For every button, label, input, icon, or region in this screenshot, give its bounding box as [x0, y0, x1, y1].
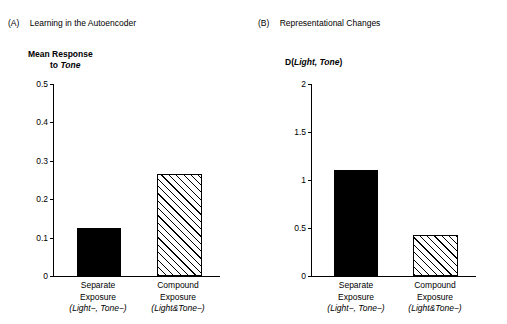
panel-b-y-axis-title-suffix: ) — [339, 57, 342, 67]
panel-b-ytick-4 — [308, 84, 312, 85]
panel-a-yticklabel-0: 0 — [43, 271, 48, 281]
panel-a-title: Learning in the Autoencoder — [30, 18, 136, 28]
panel-a-xlabel-compound-line1: Compound — [132, 280, 224, 292]
panel-a-bar-compound[interactable] — [157, 174, 202, 276]
panel-a-y-axis-title: Mean Response to Tone — [28, 49, 93, 71]
panel-a-letter: (A) — [8, 18, 19, 28]
panel-a-xlabel-separate-line3: (Light−, Tone−) — [53, 303, 143, 315]
panel-a-ytick-5 — [50, 84, 54, 85]
panel-b-xlabel-compound: Compound Exposure (Light&Tone−) — [389, 280, 481, 315]
panel-b-xlabel-separate-line3: (Light−, Tone−) — [311, 303, 401, 315]
panel-b-yticklabel-2: 1 — [301, 175, 306, 185]
panel-b-plot-area: 0 0.5 1 1.5 2 — [311, 84, 476, 277]
panel-b-xlabel-separate-line2: Exposure — [311, 292, 401, 304]
panel-b-xlabel-compound-line3: (Light&Tone−) — [389, 303, 481, 315]
panel-a: (A) Learning in the Autoencoder Mean Res… — [0, 0, 253, 324]
panel-b-y-axis-title-prefix: D( — [285, 57, 294, 67]
panel-a-ytick-2 — [50, 199, 54, 200]
panel-a-yticklabel-5: 0.5 — [36, 79, 48, 89]
panel-a-plot-area: 0 0.1 0.2 0.3 0.4 0.5 — [53, 84, 220, 277]
panel-b-yticklabel-1: 0.5 — [294, 223, 306, 233]
panel-a-ytick-0 — [50, 276, 54, 277]
panel-b-xlabel-compound-line1: Compound — [389, 280, 481, 292]
panel-b-title: Representational Changes — [280, 18, 381, 28]
panel-b-ytick-2 — [308, 180, 312, 181]
panel-b-y-axis-title-line: D(Light, Tone) — [285, 57, 342, 68]
panel-b-letter: (B) — [258, 18, 269, 28]
panel-a-header: (A) Learning in the Autoencoder — [8, 18, 136, 28]
panel-b-bar-separate[interactable] — [334, 170, 378, 276]
panel-a-xlabel-separate-line1: Separate — [53, 280, 143, 292]
panel-b-yticklabel-4: 2 — [301, 79, 306, 89]
panel-a-yticklabel-4: 0.4 — [36, 117, 48, 127]
panel-b-y-axis-title: D(Light, Tone) — [285, 57, 342, 68]
panel-b-ytick-3 — [308, 132, 312, 133]
panel-b-xlabel-separate: Separate Exposure (Light−, Tone−) — [311, 280, 401, 315]
panel-b: (B) Representational Changes D(Light, To… — [253, 0, 507, 324]
panel-a-yticklabel-3: 0.3 — [36, 156, 48, 166]
panel-b-xlabel-compound-line2: Exposure — [389, 292, 481, 304]
panel-a-xlabel-compound: Compound Exposure (Light&Tone−) — [132, 280, 224, 315]
panel-b-ytick-0 — [308, 276, 312, 277]
panel-a-xlabel-separate: Separate Exposure (Light−, Tone−) — [53, 280, 143, 315]
panel-a-y-axis-title-line2-italic: Tone — [60, 60, 80, 70]
panel-a-xlabel-separate-line2: Exposure — [53, 292, 143, 304]
panel-a-ytick-4 — [50, 122, 54, 123]
panel-a-y-axis-title-line1: Mean Response — [28, 49, 93, 60]
panel-a-yticklabel-1: 0.1 — [36, 233, 48, 243]
panel-a-yticklabel-2: 0.2 — [36, 194, 48, 204]
panel-a-ytick-1 — [50, 238, 54, 239]
panel-b-xlabel-separate-line1: Separate — [311, 280, 401, 292]
panel-b-header: (B) Representational Changes — [258, 18, 380, 28]
panel-a-ytick-3 — [50, 161, 54, 162]
panel-b-bar-compound[interactable] — [413, 235, 458, 276]
panel-b-ytick-1 — [308, 228, 312, 229]
panel-a-xlabel-compound-line2: Exposure — [132, 292, 224, 304]
panel-a-y-axis-title-line2: to Tone — [50, 60, 93, 71]
panel-a-xlabel-compound-line3: (Light&Tone−) — [132, 303, 224, 315]
panel-b-yticklabel-3: 1.5 — [294, 127, 306, 137]
panel-a-bar-separate[interactable] — [77, 228, 121, 276]
panel-a-y-axis-title-line2-prefix: to — [50, 60, 60, 70]
panel-b-yticklabel-0: 0 — [301, 271, 306, 281]
panel-b-y-axis-title-italic: Light, Tone — [294, 57, 339, 67]
